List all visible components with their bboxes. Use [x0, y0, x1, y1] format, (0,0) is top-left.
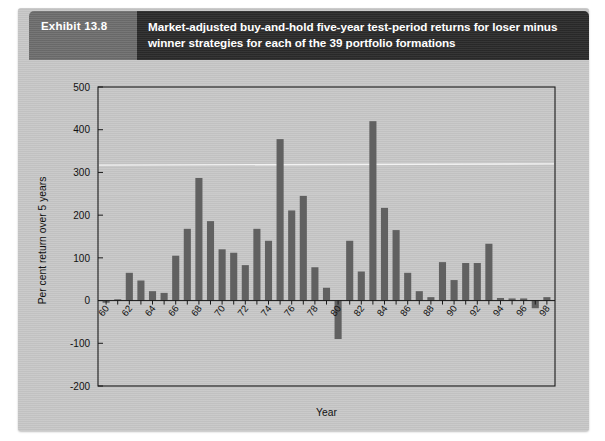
x-tick-label-96: 96	[514, 303, 529, 318]
x-tick-label-66: 66	[166, 303, 181, 318]
bar-98	[543, 297, 550, 300]
bar-89	[439, 262, 446, 300]
x-tick-label-68: 68	[189, 303, 204, 318]
bar-87	[416, 291, 423, 300]
bar-66	[172, 256, 179, 301]
bar-73	[253, 229, 260, 301]
x-tick-label-64: 64	[142, 303, 158, 319]
x-tick-label-72: 72	[235, 303, 250, 318]
x-tick-label-62: 62	[119, 303, 134, 318]
exhibit-title: Market-adjusted buy-and-hold five-year t…	[137, 11, 589, 60]
exhibit-header: Exhibit 13.8 Market-adjusted buy-and-hol…	[29, 11, 589, 60]
exhibit-page: Exhibit 13.8 Market-adjusted buy-and-hol…	[0, 0, 605, 441]
plot-area	[98, 87, 555, 386]
bar-84	[381, 208, 388, 301]
bar-83	[369, 121, 376, 300]
bar-62	[126, 273, 133, 301]
bar-68	[195, 178, 202, 301]
bar-88	[427, 297, 434, 300]
bar-70	[219, 249, 226, 300]
bar-81	[346, 241, 353, 301]
x-tick-label-70: 70	[212, 303, 227, 318]
exhibit-number-badge: Exhibit 13.8	[29, 11, 137, 60]
bar-86	[404, 273, 411, 301]
bar-75	[277, 139, 284, 300]
x-tick-label-90: 90	[444, 303, 459, 318]
x-axis-title: Year	[316, 407, 337, 418]
bar-69	[207, 221, 214, 300]
bar-72	[242, 265, 249, 300]
y-tick-label-0: 0	[84, 295, 90, 306]
x-tick-label-76: 76	[282, 303, 297, 318]
bar-67	[184, 229, 191, 301]
x-tick-label-92: 92	[467, 303, 482, 318]
bar-92	[474, 263, 481, 301]
plot-background	[98, 87, 555, 386]
bar-82	[358, 272, 365, 301]
y-axis-title: Per cent return over 5 years	[37, 177, 48, 305]
y-tick-label-100: 100	[73, 253, 90, 264]
bar-90	[451, 280, 458, 301]
bar-64	[149, 291, 156, 300]
x-tick-label-84: 84	[374, 303, 390, 319]
bar-chart: -200-10001002003004005006062646668707274…	[18, 60, 589, 431]
x-tick-label-98: 98	[537, 303, 552, 318]
bar-74	[265, 241, 272, 301]
x-tick-label-94: 94	[490, 303, 506, 319]
y-tick-label--200: -200	[70, 381, 90, 392]
chart-container: -200-10001002003004005006062646668707274…	[18, 60, 589, 431]
bar-78	[311, 267, 318, 300]
bar-85	[393, 230, 400, 300]
y-tick-label-500: 500	[73, 82, 90, 93]
bar-71	[230, 253, 237, 301]
scan-highlight-line	[99, 164, 554, 165]
axis-labels-group: -200-10001002003004005006062646668707274…	[70, 82, 552, 392]
bar-77	[300, 196, 307, 301]
bar-76	[288, 210, 295, 300]
y-tick-label-300: 300	[73, 167, 90, 178]
bar-63	[137, 281, 144, 301]
x-tick-label-78: 78	[305, 303, 320, 318]
x-tick-label-82: 82	[351, 303, 366, 318]
x-tick-label-86: 86	[398, 303, 413, 318]
bar-91	[462, 263, 469, 301]
y-tick-label-200: 200	[73, 210, 90, 221]
bar-79	[323, 288, 330, 301]
plot-frame	[98, 87, 555, 386]
y-tick-label-400: 400	[73, 124, 90, 135]
axes-group	[98, 87, 555, 386]
y-tick-label--100: -100	[70, 338, 90, 349]
bar-65	[161, 293, 168, 301]
x-tick-label-74: 74	[258, 303, 274, 319]
x-tick-label-88: 88	[421, 303, 436, 318]
bar-93	[485, 244, 492, 301]
